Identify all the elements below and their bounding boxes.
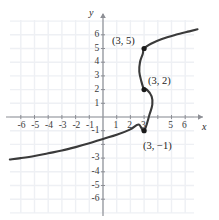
y-tick-4: 4: [95, 57, 100, 67]
x-axis-label: x: [202, 122, 206, 132]
x-tick-6: 6: [182, 121, 187, 131]
y-tick-1: 1: [95, 99, 100, 109]
y-tick-neg3: -3: [92, 153, 100, 163]
point-label-3-neg1: (3, −1): [143, 141, 172, 152]
x-tick-neg6: -6: [18, 121, 26, 131]
y-tick-5: 5: [95, 44, 100, 54]
y-axis-label: y: [89, 8, 93, 18]
y-tick-6: 6: [95, 30, 100, 40]
graph-figure: y x -6-5-4-3-2-112356 654321-1-3-4-5-6 (…: [0, 0, 219, 220]
point-label-3-5: (3, 5): [112, 36, 135, 47]
y-tick-neg5: -5: [92, 181, 100, 191]
data-point: [142, 46, 147, 51]
point-label-3-2: (3, 2): [148, 76, 171, 87]
x-tick-1: 1: [114, 121, 119, 131]
y-tick-neg1: -1: [92, 126, 100, 136]
graph-canvas: [0, 0, 219, 220]
x-tick-3: 3: [141, 121, 146, 131]
y-tick-2: 2: [95, 85, 100, 95]
x-tick-5: 5: [168, 121, 173, 131]
x-tick-neg3: -3: [59, 121, 67, 131]
x-tick-neg5: -5: [31, 121, 39, 131]
data-point: [142, 87, 147, 92]
x-tick-neg2: -2: [72, 121, 80, 131]
y-tick-neg6: -6: [92, 194, 100, 204]
x-tick-neg4: -4: [45, 121, 53, 131]
x-tick-2: 2: [127, 121, 132, 131]
y-tick-3: 3: [95, 71, 100, 81]
y-tick-neg4: -4: [92, 167, 100, 177]
